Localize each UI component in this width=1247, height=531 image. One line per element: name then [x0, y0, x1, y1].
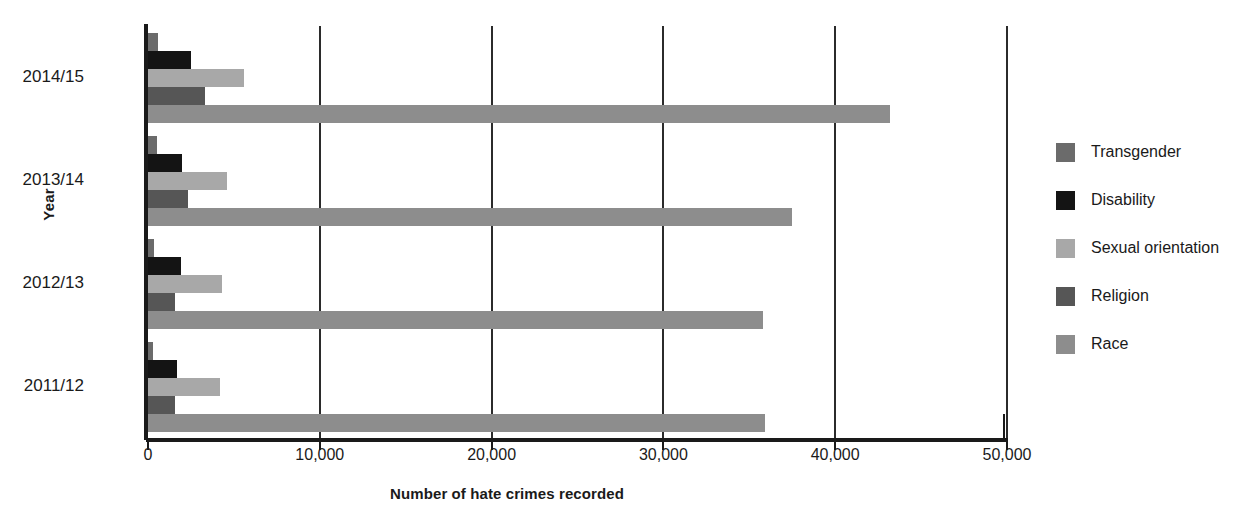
legend-label: Religion	[1091, 287, 1149, 305]
y-axis-category-label: 2013/14	[23, 170, 84, 190]
x-axis-tick-label: 30,000	[639, 446, 688, 464]
x-axis-tick-label: 40,000	[811, 446, 860, 464]
legend-label: Transgender	[1091, 143, 1181, 161]
gridline	[1006, 26, 1008, 438]
plot-area	[148, 26, 1007, 438]
bar-sexual-orientation-2011-12	[148, 378, 220, 396]
bar-sexual-orientation-2013-14	[148, 172, 227, 190]
bar-disability-2014-15	[148, 51, 191, 69]
gridline	[662, 26, 664, 438]
x-axis-line	[146, 438, 1007, 442]
chart-legend: TransgenderDisabilitySexual orientationR…	[1056, 128, 1219, 368]
legend-swatch-icon	[1056, 335, 1075, 354]
legend-item-disability[interactable]: Disability	[1056, 176, 1219, 224]
bar-race-2012-13	[148, 311, 763, 329]
legend-swatch-icon	[1056, 287, 1075, 306]
legend-item-transgender[interactable]: Transgender	[1056, 128, 1219, 176]
bar-religion-2012-13	[148, 293, 175, 311]
bar-disability-2012-13	[148, 257, 181, 275]
bar-transgender-2013-14	[148, 136, 157, 154]
bar-disability-2013-14	[148, 154, 182, 172]
y-axis-category-label: 2014/15	[23, 67, 84, 87]
bar-race-2013-14	[148, 208, 792, 226]
bar-sexual-orientation-2014-15	[148, 69, 244, 87]
bar-religion-2011-12	[148, 396, 175, 414]
x-axis-tick-label: 0	[144, 446, 153, 464]
bar-transgender-2014-15	[148, 33, 158, 51]
x-axis-tick-label: 20,000	[467, 446, 516, 464]
hate-crimes-bar-chart: Year 010,00020,00030,00040,00050,000 201…	[0, 0, 1247, 531]
x-axis-title: Number of hate crimes recorded	[0, 485, 1014, 502]
legend-swatch-icon	[1056, 239, 1075, 258]
bar-disability-2011-12	[148, 360, 177, 378]
legend-label: Disability	[1091, 191, 1155, 209]
bar-religion-2013-14	[148, 190, 188, 208]
bar-religion-2014-15	[148, 87, 205, 105]
legend-item-race[interactable]: Race	[1056, 320, 1219, 368]
legend-item-religion[interactable]: Religion	[1056, 272, 1219, 320]
gridline	[834, 26, 836, 438]
bar-race-2011-12	[148, 414, 765, 432]
legend-item-sexual-orientation[interactable]: Sexual orientation	[1056, 224, 1219, 272]
bar-transgender-2011-12	[148, 342, 153, 360]
x-axis-tick-label: 50,000	[983, 446, 1032, 464]
legend-label: Sexual orientation	[1091, 239, 1219, 257]
gridline	[491, 26, 493, 438]
bar-sexual-orientation-2012-13	[148, 275, 222, 293]
x-axis-tick-label: 10,000	[295, 446, 344, 464]
legend-swatch-icon	[1056, 143, 1075, 162]
bar-transgender-2012-13	[148, 239, 154, 257]
bar-race-2014-15	[148, 105, 890, 123]
y-axis-category-label: 2012/13	[23, 273, 84, 293]
legend-swatch-icon	[1056, 191, 1075, 210]
y-axis-category-label: 2011/12	[24, 376, 84, 396]
legend-label: Race	[1091, 335, 1128, 353]
gridline	[319, 26, 321, 438]
